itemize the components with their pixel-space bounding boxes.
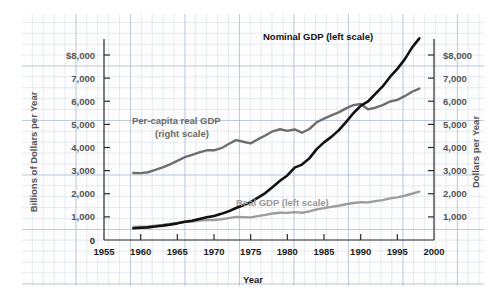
left-tick-label: 5,000 [71, 119, 95, 130]
right-tick-label: 1,000 [443, 211, 467, 222]
x-tick-label: 1985 [313, 246, 335, 257]
right-tick-label: 4,000 [443, 142, 467, 153]
nominal-gdp-label: Nominal GDP (left scale) [263, 31, 373, 42]
x-tick-label: 1965 [167, 246, 189, 257]
gdp-line-chart: 01,0002,0003,0004,0005,0006,0007,000$8,0… [0, 0, 501, 296]
left-tick-label: 3,000 [71, 165, 95, 176]
right-tick-label: 7,000 [443, 73, 467, 84]
left-tick-label: 6,000 [71, 96, 95, 107]
right-axis-ticks: 1,0002,0003,0004,0005,0006,0007,000$8,00… [428, 50, 472, 223]
left-tick-label: 1,000 [71, 211, 95, 222]
right-tick-label: 3,000 [443, 165, 467, 176]
chart-canvas: 01,0002,0003,0004,0005,0006,0007,000$8,0… [0, 0, 501, 296]
right-tick-label: 6,000 [443, 96, 467, 107]
left-axis-title: Billions of Dollars per Year [28, 91, 39, 212]
left-tick-label: 0 [90, 235, 95, 246]
left-tick-label: 4,000 [71, 142, 95, 153]
real-gdp-label: Real GDP (left scale) [236, 197, 329, 208]
right-tick-label: $8,000 [443, 50, 472, 61]
left-axis-ticks: 01,0002,0003,0004,0005,0006,0007,000$8,0… [66, 50, 110, 246]
per-capita-real-gdp-sublabel: (right scale) [155, 128, 209, 139]
left-tick-label: 2,000 [71, 188, 95, 199]
x-tick-label: 1995 [387, 246, 409, 257]
per-capita-real-gdp-label: Per-capita real GDP [132, 115, 221, 126]
x-tick-label: 1990 [350, 246, 371, 257]
x-tick-label: 1955 [93, 246, 115, 257]
right-tick-label: 5,000 [443, 119, 467, 130]
chart-page: 01,0002,0003,0004,0005,0006,0007,000$8,0… [0, 0, 501, 296]
x-tick-label: 2000 [423, 246, 444, 257]
right-tick-label: 2,000 [443, 188, 467, 199]
x-axis-title: Year [243, 274, 263, 285]
right-axis-title: Dollars per Year [470, 116, 481, 188]
x-tick-label: 1970 [203, 246, 224, 257]
x-axis-ticks: 1955196019651970197519801985199019952000 [93, 234, 444, 257]
x-tick-label: 1980 [277, 246, 298, 257]
left-tick-label: $8,000 [66, 50, 95, 61]
x-tick-label: 1960 [130, 246, 151, 257]
left-tick-label: 7,000 [71, 73, 95, 84]
x-tick-label: 1975 [240, 246, 262, 257]
